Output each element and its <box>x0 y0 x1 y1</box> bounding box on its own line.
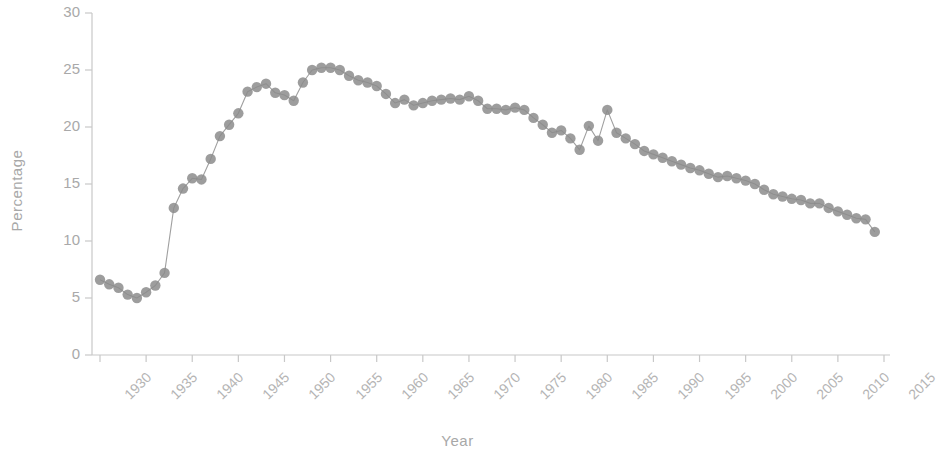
data-point-marker <box>565 133 575 143</box>
data-point-marker <box>288 96 298 106</box>
data-point-marker <box>122 289 132 299</box>
data-point-marker <box>491 104 501 114</box>
data-point-marker <box>796 195 806 205</box>
data-point-marker <box>704 169 714 179</box>
data-point-marker <box>805 198 815 208</box>
y-axis-title: Percentage <box>8 131 25 251</box>
data-point-marker <box>621 133 631 143</box>
y-tick-label: 5 <box>40 288 80 305</box>
data-point-marker <box>279 90 289 100</box>
data-point-marker <box>408 100 418 110</box>
data-point-marker <box>593 135 603 145</box>
data-point-marker <box>464 91 474 101</box>
data-point-marker <box>169 203 179 213</box>
data-point-marker <box>399 94 409 104</box>
data-point-marker <box>676 159 686 169</box>
data-point-marker <box>547 128 557 138</box>
data-point-marker <box>639 146 649 156</box>
x-axis-title: Year <box>0 432 915 449</box>
data-point-marker <box>584 121 594 131</box>
data-point-marker <box>445 93 455 103</box>
data-point-marker <box>833 206 843 216</box>
data-point-marker <box>667 156 677 166</box>
data-point-marker <box>814 198 824 208</box>
data-point-marker <box>556 125 566 135</box>
y-tick-label: 20 <box>40 117 80 134</box>
data-point-marker <box>482 104 492 114</box>
data-point-marker <box>344 71 354 81</box>
data-point-marker <box>519 105 529 115</box>
data-point-marker <box>436 94 446 104</box>
data-point-marker <box>372 81 382 91</box>
data-point-marker <box>325 63 335 73</box>
data-point-marker <box>270 88 280 98</box>
data-point-marker <box>224 120 234 130</box>
data-point-marker <box>252 82 262 92</box>
data-point-marker <box>150 280 160 290</box>
data-point-marker <box>501 105 511 115</box>
data-point-marker <box>694 165 704 175</box>
data-point-marker <box>159 268 169 278</box>
data-point-marker <box>455 94 465 104</box>
data-point-marker <box>538 120 548 130</box>
data-point-marker <box>611 128 621 138</box>
data-point-marker <box>860 214 870 224</box>
data-point-marker <box>731 173 741 183</box>
data-point-marker <box>473 96 483 106</box>
data-point-marker <box>390 98 400 108</box>
data-point-marker <box>427 96 437 106</box>
data-point-marker <box>187 173 197 183</box>
data-point-marker <box>510 102 520 112</box>
data-point-marker <box>298 77 308 87</box>
chart-series <box>95 63 880 304</box>
data-point-marker <box>316 63 326 73</box>
data-point-marker <box>630 139 640 149</box>
data-point-marker <box>307 65 317 75</box>
data-point-marker <box>842 210 852 220</box>
data-point-marker <box>851 213 861 223</box>
data-point-marker <box>528 113 538 123</box>
y-tick-label: 25 <box>40 60 80 77</box>
data-point-marker <box>196 174 206 184</box>
data-point-marker <box>233 108 243 118</box>
y-tick-label: 30 <box>40 3 80 20</box>
data-point-marker <box>242 86 252 96</box>
data-point-marker <box>574 145 584 155</box>
data-point-marker <box>713 172 723 182</box>
data-point-marker <box>740 175 750 185</box>
y-tick-label: 15 <box>40 174 80 191</box>
data-point-marker <box>685 163 695 173</box>
data-point-marker <box>759 185 769 195</box>
data-point-marker <box>768 189 778 199</box>
data-point-marker <box>602 105 612 115</box>
data-point-marker <box>113 283 123 293</box>
data-point-marker <box>261 78 271 88</box>
data-point-marker <box>132 293 142 303</box>
data-point-marker <box>215 131 225 141</box>
data-point-marker <box>777 191 787 201</box>
data-point-marker <box>787 194 797 204</box>
data-point-marker <box>823 203 833 213</box>
data-point-marker <box>870 227 880 237</box>
y-tick-label: 10 <box>40 231 80 248</box>
data-point-marker <box>418 98 428 108</box>
data-point-marker <box>381 89 391 99</box>
data-point-marker <box>335 65 345 75</box>
data-point-marker <box>353 75 363 85</box>
data-point-marker <box>205 154 215 164</box>
data-point-marker <box>104 279 114 289</box>
data-point-marker <box>141 287 151 297</box>
data-point-marker <box>750 179 760 189</box>
data-point-marker <box>178 183 188 193</box>
data-point-marker <box>362 77 372 87</box>
data-point-marker <box>648 149 658 159</box>
y-tick-label: 0 <box>40 345 80 362</box>
data-point-marker <box>657 153 667 163</box>
chart-axes <box>85 13 890 362</box>
data-point-marker <box>95 275 105 285</box>
data-point-marker <box>722 171 732 181</box>
